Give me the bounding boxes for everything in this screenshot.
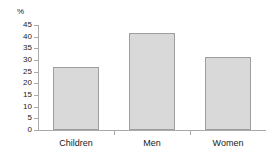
bar-women	[205, 57, 251, 131]
x-axis-label-men: Men	[112, 138, 192, 148]
x-axis-label-children: Children	[36, 138, 116, 148]
bar-children	[53, 67, 99, 130]
x-axis-line	[38, 130, 266, 131]
y-axis-tick-label: 25	[0, 68, 32, 76]
y-axis-tick-label: 10	[0, 103, 32, 111]
bar-chart: % 454035302520151050 ChildrenMenWomen	[0, 0, 272, 162]
y-axis-tick-label: 45	[0, 21, 32, 29]
x-axis-tick	[190, 131, 191, 135]
y-axis-tick-label: 35	[0, 44, 32, 52]
bar-men	[129, 33, 175, 130]
x-axis-label-women: Women	[188, 138, 268, 148]
y-axis-tick-label: 30	[0, 56, 32, 64]
y-axis-tick-label: 20	[0, 79, 32, 87]
y-axis-tick-label: 40	[0, 33, 32, 41]
y-axis-tick-label: 15	[0, 91, 32, 99]
plot-area	[38, 25, 266, 130]
y-axis-tick-label: 0	[0, 126, 32, 134]
y-axis-unit-label: %	[17, 7, 24, 16]
y-axis-tick	[34, 130, 38, 131]
x-axis-tick	[114, 131, 115, 135]
y-axis-tick-label: 5	[0, 114, 32, 122]
